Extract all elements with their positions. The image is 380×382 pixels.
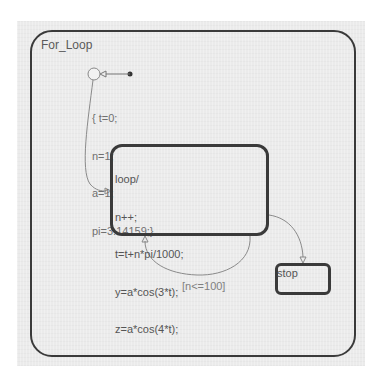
state-loop-line: t=t+n*pi/1000; — [115, 248, 184, 261]
default-action-line: { t=0; — [92, 112, 153, 125]
state-stop-label: stop — [277, 267, 298, 280]
state-loop-line: z=a*cos(4*t); — [115, 323, 184, 336]
transition-self-loop-guard: [n<=100] — [182, 280, 225, 293]
state-loop-line: loop/ — [115, 173, 184, 186]
state-for-loop-label: For_Loop — [41, 39, 92, 52]
state-loop-line: n++; — [115, 211, 184, 224]
state-loop-line: y=a*cos(3*t); — [115, 286, 184, 299]
stateflow-canvas: For_Loop { t=0; n=1; a=1; pi=3.14159;} l… — [0, 0, 380, 382]
state-loop-label: loop/ n++; t=t+n*pi/1000; y=a*cos(3*t); … — [115, 148, 184, 361]
